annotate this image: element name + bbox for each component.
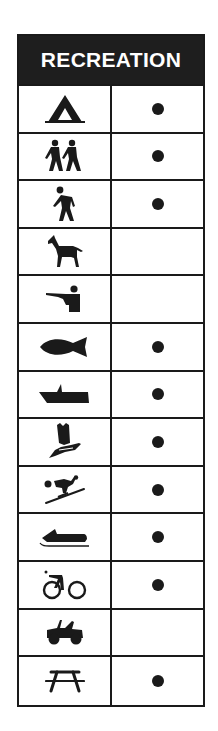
- table-row: [19, 419, 203, 467]
- available-dot: [152, 198, 164, 210]
- tent-icon: [45, 94, 85, 124]
- table-row: [19, 610, 203, 658]
- table-row: [19, 181, 203, 229]
- activity-icon-cell: [19, 514, 112, 560]
- table-row: [19, 562, 203, 610]
- available-dot: [152, 341, 164, 353]
- hunter-rifle-icon: [46, 285, 84, 313]
- activity-icon-cell: [19, 134, 112, 180]
- availability-cell: [112, 562, 203, 608]
- activity-icon-cell: [19, 181, 112, 227]
- horse-icon: [45, 235, 85, 269]
- table-title: RECREATION: [19, 36, 203, 86]
- activity-icon-cell: [19, 610, 112, 656]
- availability-cell: [112, 419, 203, 465]
- available-dot: [152, 436, 164, 448]
- available-dot: [152, 103, 164, 115]
- activity-icon-cell: [19, 276, 112, 322]
- table-row: [19, 467, 203, 515]
- activity-icon-cell: [19, 657, 112, 705]
- availability-cell: [112, 181, 203, 227]
- table-row: [19, 276, 203, 324]
- activity-icon-cell: [19, 467, 112, 513]
- available-dot: [152, 150, 164, 162]
- availability-cell: [112, 324, 203, 370]
- activity-icon-cell: [19, 324, 112, 370]
- table-row: [19, 657, 203, 705]
- hikers-icon: [45, 139, 85, 173]
- availability-cell: [112, 372, 203, 418]
- availability-cell: [112, 514, 203, 560]
- table-row: [19, 372, 203, 420]
- activity-icon-cell: [19, 86, 112, 132]
- availability-cell: [112, 610, 203, 656]
- table-row: [19, 514, 203, 562]
- activity-icon-cell: [19, 562, 112, 608]
- boat-icon: [39, 383, 91, 405]
- snowmobile-icon: [39, 526, 91, 548]
- availability-cell: [112, 276, 203, 322]
- recreation-table: RECREATION: [17, 34, 205, 707]
- availability-cell: [112, 467, 203, 513]
- fish-icon: [39, 336, 91, 358]
- table-row: [19, 134, 203, 182]
- table-row: [19, 229, 203, 277]
- available-dot: [152, 388, 164, 400]
- hiker-icon: [51, 186, 79, 222]
- picnic-table-icon: [45, 669, 85, 693]
- availability-cell: [112, 86, 203, 132]
- bird-on-hand-icon: [47, 423, 83, 461]
- skier-icon: [44, 475, 86, 505]
- availability-cell: [112, 134, 203, 180]
- bicycle-icon: [42, 570, 88, 600]
- availability-cell: [112, 229, 203, 275]
- availability-cell: [112, 657, 203, 705]
- available-dot: [152, 675, 164, 687]
- activity-icon-cell: [19, 372, 112, 418]
- activity-icon-cell: [19, 229, 112, 275]
- table-row: [19, 324, 203, 372]
- available-dot: [152, 531, 164, 543]
- available-dot: [152, 579, 164, 591]
- available-dot: [152, 484, 164, 496]
- jeep-icon: [45, 618, 85, 646]
- activity-icon-cell: [19, 419, 112, 465]
- table-row: [19, 86, 203, 134]
